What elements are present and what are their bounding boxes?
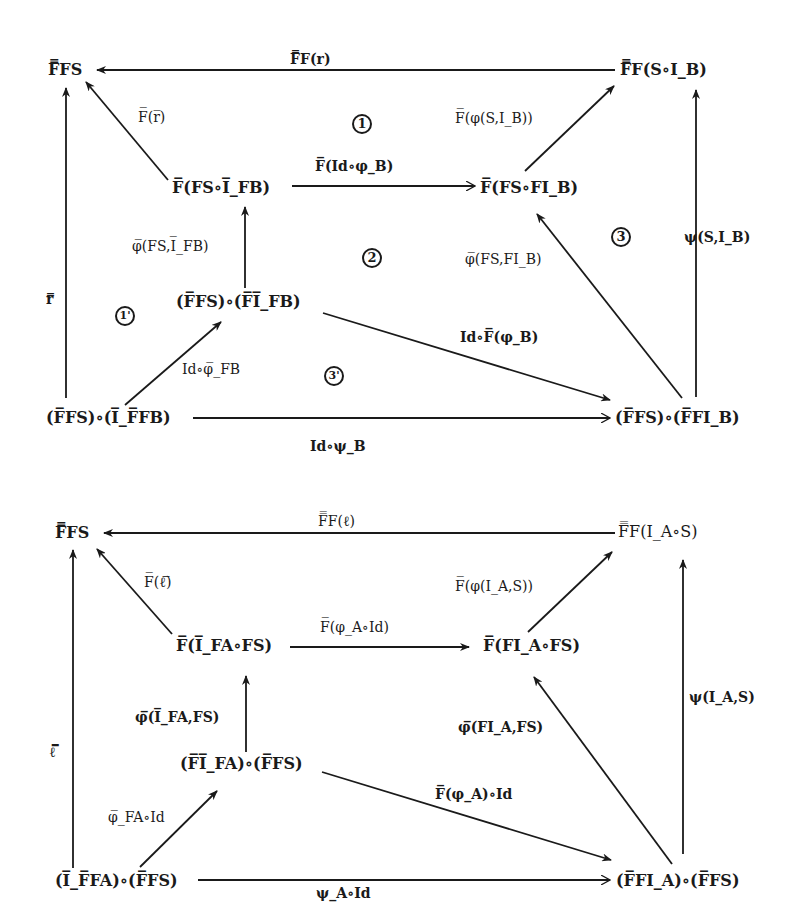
edge-label-top: F̿F(r) — [290, 50, 331, 68]
diagram-arrows — [0, 0, 793, 903]
arrow-diag-ll-b — [140, 791, 217, 867]
node-fifa-ffs: (F̅I̅_FA)∘(F̅FS) — [180, 755, 303, 773]
edge-label-diag-ur-b: F̅(φ(I_A,S)) — [455, 577, 533, 595]
node-ffia-ffs: (F̅FI_A)∘(F̅FS) — [616, 872, 739, 890]
region-marker-1: 1 — [352, 114, 372, 134]
edge-label-left-v: r̿ — [46, 290, 53, 308]
node-ffs-ffib: (F̅FS)∘(F̅FI_B) — [615, 409, 740, 427]
edge-label-diag-rl-b: φ̅(FI_A,FS) — [458, 718, 543, 736]
edge-label-vert-mid: φ̅(FS,I̅_FB) — [132, 237, 209, 255]
node-ffs-fifb: (F̅FS)∘(F̅I̅_FB) — [176, 293, 301, 311]
edge-label-diag-ul-b: F̅(ℓ̅) — [144, 573, 171, 591]
region-marker-3: 3 — [611, 227, 631, 247]
edge-label-diag-ur: F̅(φ(S,I_B)) — [455, 109, 533, 127]
edge-label-right-v-b: ψ(I_A,S) — [689, 688, 755, 706]
arrow-diag-lr — [323, 313, 610, 400]
edge-label-bottom-b: ψ_A∘Id — [316, 884, 371, 902]
node-ffs-iffb: (F̅FS)∘(I̅_F̅FB) — [46, 409, 171, 427]
edge-label-top-b: F̿F(ℓ) — [318, 512, 355, 530]
edge-label-mid-h: F̅(Id∘φ_B) — [315, 157, 393, 175]
arrow-diag-ul-b — [97, 549, 172, 634]
node-f-fs-fib: F̅(FS∘FI_B) — [480, 179, 578, 197]
commutative-diagrams: F̿FS F̿F(S∘I_B) F̅(FS∘I̅_FB) F̅(FS∘FI_B)… — [0, 0, 793, 903]
arrow-diag-ur — [525, 86, 614, 171]
node-ff-ia-s: F̿F(I_A∘S) — [618, 523, 697, 541]
arrow-diag-ur-b — [528, 552, 612, 632]
edge-label-bottom: Id∘ψ_B — [310, 437, 366, 455]
region-marker-2: 2 — [362, 248, 382, 268]
edge-label-diag-ll: Id∘φ̅_FB — [182, 360, 240, 378]
edge-label-diag-rl: φ̅(FS,FI_B) — [465, 250, 542, 268]
node-ffs: F̿FS — [48, 61, 82, 79]
edge-label-diag-ll-b: φ̅_FA∘Id — [108, 808, 165, 826]
node-ff-s-ib: F̿F(S∘I_B) — [620, 61, 707, 79]
edge-label-vert-mid-b: φ̅(I̅_FA,FS) — [135, 708, 219, 726]
arrow-diag-rl-b — [534, 677, 672, 864]
arrow-diag-rl — [537, 214, 682, 398]
region-marker-1-prime: 1' — [115, 306, 135, 326]
node-f-fs-ifb: F̅(FS∘I̅_FB) — [172, 179, 270, 197]
edge-label-diag-ul: F̅(r̅) — [138, 108, 165, 126]
edge-label-right-v: ψ(S,I_B) — [684, 228, 750, 246]
arrow-diag-ul — [86, 82, 168, 180]
edge-label-left-v-b: ℓ̿ — [50, 743, 55, 761]
node-f-ifa-fs: F̅(I̅_FA∘FS) — [176, 637, 272, 655]
node-iffa-ffs: (I̅_F̅FA)∘(F̅FS) — [55, 872, 178, 890]
node-f-fia-fs: F̅(FI_A∘FS) — [483, 637, 580, 655]
region-marker-3-prime: 3' — [324, 366, 344, 386]
edge-label-mid-h-b: F̅(φ_A∘Id) — [320, 618, 389, 636]
edge-label-diag-lr-b: F̅(φ_A)∘Id — [435, 785, 512, 803]
edge-label-diag-lr: Id∘F̅(φ_B) — [460, 328, 538, 346]
node-ffs-b: F̿FS — [55, 524, 89, 542]
